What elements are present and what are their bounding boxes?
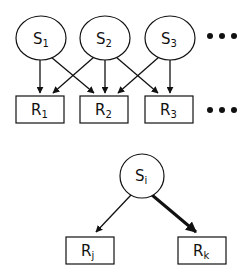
receiver-node-r2: R2 — [80, 96, 128, 123]
source-node-s2: S2 — [80, 16, 130, 60]
receiver-node-r1: R1 — [16, 96, 64, 123]
source-node-s3: S3 — [145, 16, 195, 60]
edge-s2-r3 — [116, 57, 158, 93]
bipartite-diagram: S1 S2 S3 R1 R2 R3 Si Rj — [0, 0, 249, 276]
receiver-node-rk: Rk — [178, 237, 226, 264]
receiver-node-r3: R3 — [145, 96, 193, 123]
edge-si-rk-thick — [152, 195, 196, 232]
edge-s3-r2 — [118, 57, 159, 93]
edge-si-rj-thin — [96, 195, 131, 232]
source-node-s1: S1 — [16, 16, 66, 60]
top-edges — [40, 57, 170, 93]
receiver-node-rj: Rj — [66, 237, 114, 264]
source-node-si: Si — [120, 154, 164, 198]
ellipsis-receivers — [207, 107, 237, 113]
ellipsis-sources — [207, 33, 237, 39]
